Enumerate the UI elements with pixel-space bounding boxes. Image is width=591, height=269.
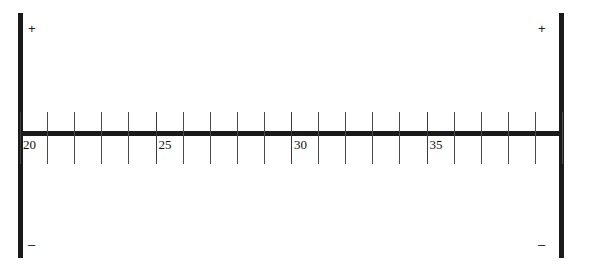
tick-mark-24 [128,112,129,164]
tick-mark-38 [508,112,509,164]
tick-mark-22 [74,112,75,164]
tick-mark-34 [399,112,400,164]
tick-mark-31 [318,112,319,164]
tick-mark-37 [481,112,482,164]
plus-sign-top-right: + [538,22,546,35]
tick-mark-28 [237,112,238,164]
minus-sign-bottom-right: – [538,238,545,251]
tick-mark-23 [101,112,102,164]
tick-mark-21 [47,112,48,164]
tick-mark-27 [210,112,211,164]
tick-mark-39 [535,112,536,164]
tick-label-30: 30 [294,138,307,151]
tick-label-25: 25 [159,138,172,151]
tick-mark-40 [562,112,563,164]
tick-mark-20 [20,112,21,164]
minus-sign-bottom-left: – [28,238,35,251]
tick-mark-26 [183,112,184,164]
tick-label-35: 35 [430,138,443,151]
tick-mark-36 [454,112,455,164]
tick-mark-32 [345,112,346,164]
plus-sign-top-left: + [28,22,36,35]
linear-measurement-scale: 20253035 + + – – [0,0,591,269]
tick-label-20: 20 [23,138,36,151]
tick-mark-29 [264,112,265,164]
tick-mark-25 [156,112,157,164]
tick-mark-30 [291,112,292,164]
tick-mark-35 [427,112,428,164]
tick-mark-33 [372,112,373,164]
